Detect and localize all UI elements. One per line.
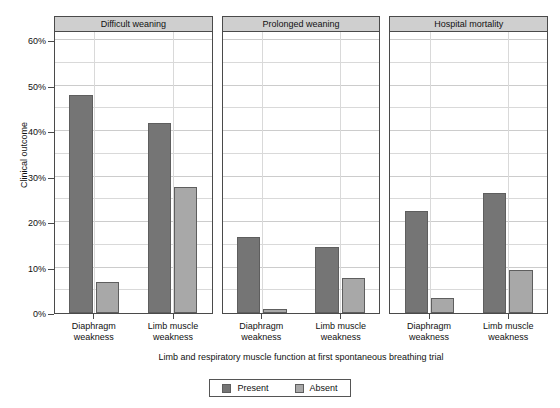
bar-present[interactable] bbox=[315, 247, 339, 313]
gridline-horizontal bbox=[390, 85, 547, 86]
legend-item-present[interactable]: Present bbox=[222, 383, 268, 393]
bar-present[interactable] bbox=[405, 211, 429, 313]
y-tick-label: 0% bbox=[2, 310, 46, 319]
gridline-horizontal bbox=[223, 107, 380, 108]
x-tick-label-line2: weakness bbox=[386, 332, 472, 343]
panels-row: Difficult weaningDiaphragmweaknessLimb m… bbox=[54, 16, 548, 314]
x-tick-label: Limb muscleweakness bbox=[465, 321, 551, 343]
y-tick-mark bbox=[48, 314, 54, 315]
bar-present[interactable] bbox=[237, 237, 261, 313]
legend-label-present: Present bbox=[237, 383, 268, 393]
gridline-horizontal bbox=[223, 198, 380, 199]
panel-plot-area bbox=[389, 32, 548, 314]
y-tick-label: 30% bbox=[2, 174, 46, 183]
gridline-horizontal bbox=[390, 107, 547, 108]
x-tick-mark bbox=[261, 314, 262, 319]
bar-absent[interactable] bbox=[431, 298, 455, 313]
panel-title: Difficult weaning bbox=[54, 16, 213, 32]
legend-box: Present Absent bbox=[209, 379, 350, 397]
gridline-horizontal bbox=[223, 62, 380, 63]
bar-absent[interactable] bbox=[96, 282, 120, 313]
x-tick-mark bbox=[173, 314, 174, 319]
panel-title: Prolonged weaning bbox=[222, 16, 381, 32]
x-tick-mark bbox=[340, 314, 341, 319]
gridline-horizontal bbox=[55, 62, 212, 63]
y-axis-ticks: 0%10%20%30%40%50%60% bbox=[0, 0, 46, 408]
x-tick-label-line2: weakness bbox=[298, 332, 384, 343]
gridline-horizontal bbox=[223, 85, 380, 86]
x-tick-label: Limb muscleweakness bbox=[130, 321, 216, 343]
gridline-horizontal bbox=[390, 39, 547, 40]
y-tick-label: 50% bbox=[2, 83, 46, 92]
gridline-horizontal bbox=[55, 39, 212, 40]
bar-present[interactable] bbox=[483, 193, 507, 313]
x-tick-label: Diaphragmweakness bbox=[51, 321, 137, 343]
y-tick-label: 40% bbox=[2, 128, 46, 137]
bar-absent[interactable] bbox=[174, 187, 198, 313]
gridline-horizontal bbox=[223, 130, 380, 131]
gridline-horizontal bbox=[223, 39, 380, 40]
panel-plot-area bbox=[222, 32, 381, 314]
gridline-vertical bbox=[340, 32, 341, 313]
legend: Present Absent bbox=[0, 379, 560, 397]
bar-absent[interactable] bbox=[263, 309, 287, 313]
y-tick-label: 20% bbox=[2, 219, 46, 228]
gridline-vertical bbox=[430, 32, 431, 313]
x-tick-mark bbox=[93, 314, 94, 319]
gridline-horizontal bbox=[390, 62, 547, 63]
figure: Clinical outcome 0%10%20%30%40%50%60% Di… bbox=[0, 0, 560, 408]
x-tick-label-line2: weakness bbox=[465, 332, 551, 343]
gridline-horizontal bbox=[223, 176, 380, 177]
legend-swatch-absent-icon bbox=[295, 384, 304, 393]
legend-swatch-present-icon bbox=[222, 384, 231, 393]
x-tick-mark bbox=[508, 314, 509, 319]
x-tick-mark bbox=[429, 314, 430, 319]
legend-label-absent: Absent bbox=[310, 383, 338, 393]
x-tick-label-line1: Diaphragm bbox=[218, 321, 304, 332]
panel-3: Hospital mortalityDiaphragmweaknessLimb … bbox=[389, 16, 548, 314]
x-tick-label-line1: Diaphragm bbox=[386, 321, 472, 332]
panel-plot-area bbox=[54, 32, 213, 314]
x-tick-label-line1: Diaphragm bbox=[51, 321, 137, 332]
bar-absent[interactable] bbox=[509, 270, 533, 313]
bar-present[interactable] bbox=[148, 123, 172, 313]
bar-absent[interactable] bbox=[342, 278, 366, 313]
x-tick-label-line1: Limb muscle bbox=[130, 321, 216, 332]
gridline-horizontal bbox=[390, 153, 547, 154]
legend-item-absent[interactable]: Absent bbox=[295, 383, 338, 393]
bar-present[interactable] bbox=[69, 95, 93, 313]
x-tick-label-line1: Limb muscle bbox=[298, 321, 384, 332]
gridline-vertical bbox=[94, 32, 95, 313]
x-tick-label: Diaphragmweakness bbox=[218, 321, 304, 343]
gridline-horizontal bbox=[390, 130, 547, 131]
gridline-horizontal bbox=[390, 176, 547, 177]
x-tick-label: Diaphragmweakness bbox=[386, 321, 472, 343]
panel-2: Prolonged weaningDiaphragmweaknessLimb m… bbox=[222, 16, 381, 314]
x-tick-label-line1: Limb muscle bbox=[465, 321, 551, 332]
gridline-horizontal bbox=[390, 198, 547, 199]
x-tick-label: Limb muscleweakness bbox=[298, 321, 384, 343]
y-tick-label: 60% bbox=[2, 37, 46, 46]
gridline-horizontal bbox=[55, 85, 212, 86]
panel-1: Difficult weaningDiaphragmweaknessLimb m… bbox=[54, 16, 213, 314]
y-tick-label: 10% bbox=[2, 265, 46, 274]
x-tick-label-line2: weakness bbox=[51, 332, 137, 343]
x-tick-label-line2: weakness bbox=[130, 332, 216, 343]
gridline-vertical bbox=[262, 32, 263, 313]
x-axis-title: Limb and respiratory muscle function at … bbox=[54, 352, 548, 362]
gridline-horizontal bbox=[223, 153, 380, 154]
gridline-horizontal bbox=[223, 221, 380, 222]
x-tick-label-line2: weakness bbox=[218, 332, 304, 343]
panel-title: Hospital mortality bbox=[389, 16, 548, 32]
